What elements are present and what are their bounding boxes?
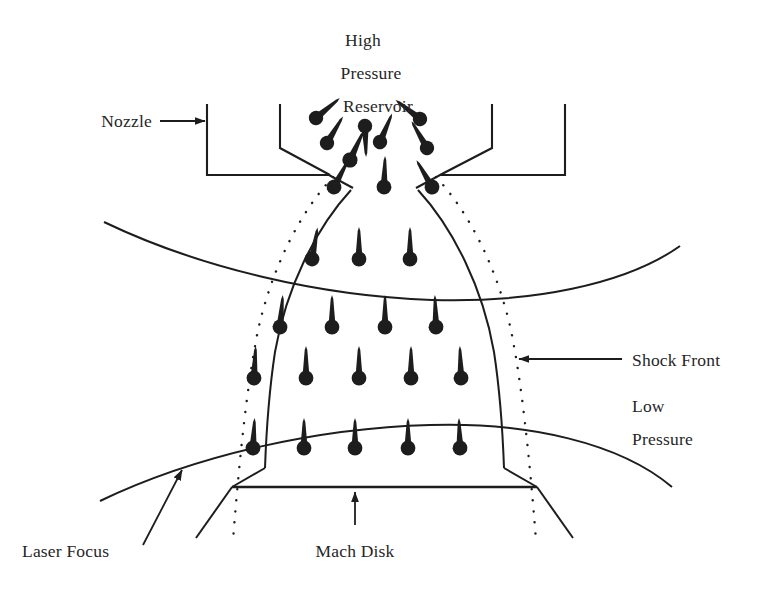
particle	[452, 346, 468, 386]
shock-front-arcs	[100, 222, 680, 501]
particle	[371, 111, 399, 152]
label-nozzle: Nozzle	[101, 111, 152, 131]
label-pressure-top: Pressure	[341, 63, 402, 83]
particle-group-throat	[324, 156, 442, 197]
figure-canvas: High Pressure Reservoir Nozzle Shock Fro…	[0, 0, 766, 600]
label-shock-front: Shock Front	[632, 350, 720, 370]
label-pressure-right: Pressure	[632, 429, 693, 449]
particle	[378, 295, 393, 334]
mach-disk	[196, 487, 573, 538]
particle	[376, 156, 392, 195]
label-laser-focus: Laser Focus	[22, 541, 109, 561]
particle	[403, 227, 418, 266]
particle	[452, 418, 468, 456]
label-reservoir: Reservoir	[343, 96, 413, 116]
label-mach-disk: Mach Disk	[315, 541, 394, 561]
label-high: High	[345, 30, 381, 50]
particle	[245, 418, 262, 456]
particle	[246, 346, 263, 386]
laser-focus-path	[233, 177, 536, 540]
jet-expansion-diagram: High Pressure Reservoir Nozzle Shock Fro…	[0, 0, 766, 600]
particle	[404, 346, 419, 385]
particle-group-plume-row3	[246, 346, 468, 386]
particle	[352, 346, 367, 385]
particle	[303, 226, 324, 267]
particle	[352, 227, 367, 266]
particle-group-plume-row2	[272, 294, 444, 335]
particle	[325, 295, 340, 334]
particle-group-plume-row4	[245, 418, 467, 456]
laser-focus-leader	[143, 470, 182, 545]
particle	[401, 418, 416, 455]
label-low: Low	[632, 396, 665, 416]
particle	[299, 346, 314, 385]
particle	[348, 418, 363, 455]
